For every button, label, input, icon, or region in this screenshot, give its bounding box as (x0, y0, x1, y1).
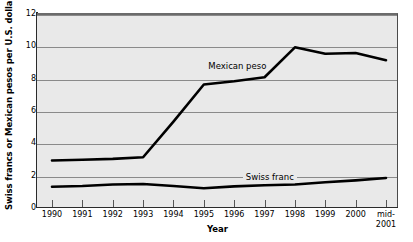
y-tick-label: 6 (22, 106, 36, 115)
series-label-swiss-franc: Swiss franc (243, 172, 297, 182)
plot-area: Mexican pesoSwiss franc (37, 13, 398, 207)
x-tick-mark (82, 200, 83, 207)
x-tick-label: 1990 (42, 210, 62, 220)
y-axis-ticks: 024681012 (16, 13, 36, 207)
y-tick-label: 8 (22, 73, 36, 82)
chart-screenshot: Swiss francs or Mexican pesos per U.S. d… (0, 0, 413, 242)
x-tick-mark (386, 200, 387, 207)
series-lines (37, 15, 398, 209)
x-tick-label: 1991 (72, 210, 92, 220)
x-tick-label: 1999 (315, 210, 335, 220)
x-tick-mark (234, 200, 235, 207)
y-tick-label: 12 (22, 9, 36, 18)
x-axis-title: Year (37, 224, 398, 234)
x-tick-mark (173, 200, 174, 207)
x-tick-mark (265, 200, 266, 207)
x-tick-mark (143, 200, 144, 207)
y-tick-label: 4 (22, 138, 36, 147)
x-tick-label: 1997 (254, 210, 274, 220)
series-line (52, 178, 386, 188)
y-tick-label: 0 (22, 203, 36, 212)
series-label-mexican-peso: Mexican peso (208, 61, 266, 71)
x-tick-label: 1998 (285, 210, 305, 220)
x-tick-mark (295, 200, 296, 207)
x-tick-label: 2000 (345, 210, 365, 220)
x-tick-label: 1992 (103, 210, 123, 220)
x-tick-label: 1994 (163, 210, 183, 220)
y-tick-label: 2 (22, 170, 36, 179)
x-tick-label: 1996 (224, 210, 244, 220)
y-tick-label: 10 (22, 41, 36, 50)
x-tick-label: 1995 (194, 210, 214, 220)
x-tick-mark (356, 200, 357, 207)
x-tick-mark (204, 200, 205, 207)
y-axis-title: Swiss francs or Mexican pesos per U.S. d… (2, 2, 16, 210)
x-tick-mark (52, 200, 53, 207)
x-tick-label: 1993 (133, 210, 153, 220)
x-tick-mark (113, 200, 114, 207)
x-tick-mark (325, 200, 326, 207)
